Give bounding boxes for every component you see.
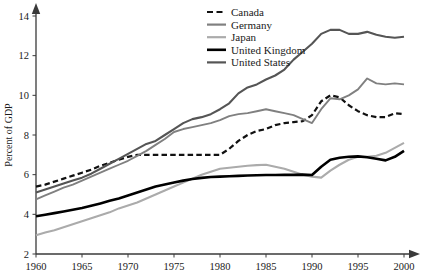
y-tick-label: 14 bbox=[19, 11, 30, 22]
series-line-germany bbox=[36, 78, 404, 199]
x-tick-label: 1975 bbox=[164, 261, 185, 272]
x-tick-label: 1960 bbox=[26, 261, 47, 272]
x-tick-label: 1965 bbox=[72, 261, 93, 272]
y-axis-title: Percent of GDP bbox=[3, 103, 14, 167]
line-chart: 2468101214196019651970197519801985199019… bbox=[0, 0, 423, 279]
y-tick-label: 6 bbox=[24, 169, 29, 180]
y-axis-arrow-icon bbox=[32, 3, 40, 14]
data-series bbox=[36, 30, 404, 235]
y-tick-label: 8 bbox=[24, 130, 29, 141]
chart-legend: CanadaGermanyJapanUnited KingdomUnited S… bbox=[207, 6, 306, 68]
y-axis-title-text: Percent of GDP bbox=[3, 103, 14, 167]
axes bbox=[32, 3, 420, 258]
x-tick-label: 2000 bbox=[394, 261, 415, 272]
y-tick-label: 10 bbox=[19, 90, 30, 101]
x-tick-label: 1980 bbox=[210, 261, 231, 272]
x-tick-label: 1995 bbox=[348, 261, 369, 272]
chart-container: 2468101214196019651970197519801985199019… bbox=[0, 0, 423, 279]
legend-label-canada: Canada bbox=[231, 6, 264, 18]
x-tick-label: 1985 bbox=[256, 261, 277, 272]
y-tick-label: 12 bbox=[19, 50, 30, 61]
legend-label-united-states: United States bbox=[231, 56, 290, 68]
legend-label-japan: Japan bbox=[231, 31, 257, 43]
y-tick-label: 4 bbox=[24, 209, 30, 220]
y-tick-label: 2 bbox=[24, 249, 29, 260]
legend-label-germany: Germany bbox=[231, 19, 272, 31]
x-tick-label: 1990 bbox=[302, 261, 323, 272]
x-axis-arrow-icon bbox=[409, 250, 420, 258]
legend-label-united-kingdom: United Kingdom bbox=[231, 44, 306, 56]
x-tick-label: 1970 bbox=[118, 261, 139, 272]
